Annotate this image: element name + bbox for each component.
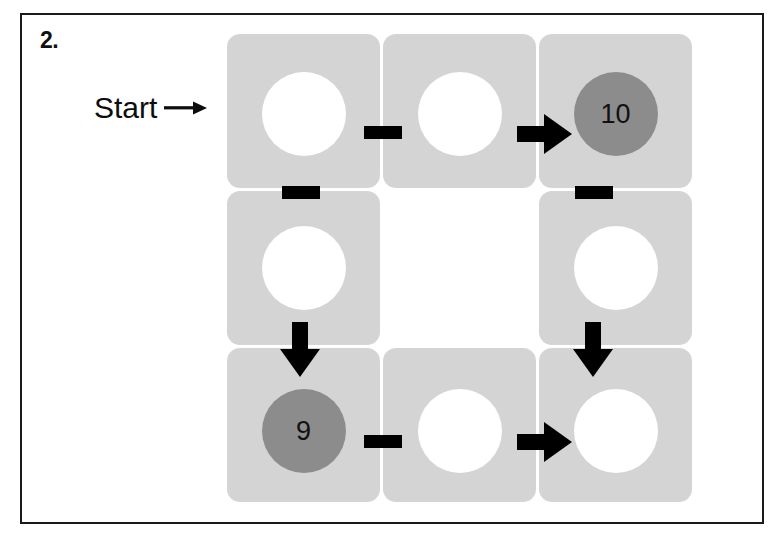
minus-icon-bottom-row-left [364, 435, 402, 448]
arrow-right-thin-icon [164, 98, 208, 118]
board-cell-top-right[interactable]: 10 [539, 34, 692, 188]
answer-circle-top-right[interactable]: 10 [574, 72, 658, 156]
arrow-down-icon-right-column [572, 322, 614, 378]
board-cell-top-left[interactable] [227, 34, 380, 188]
arrow-down-icon-left-column [279, 322, 321, 378]
answer-circle-bottom-left[interactable]: 9 [262, 389, 346, 473]
worksheet-frame: 2. Start 10 9 [20, 13, 764, 524]
answer-circle-top-center[interactable] [418, 72, 502, 156]
start-label: Start [94, 93, 157, 123]
answer-circle-middle-right[interactable] [574, 226, 658, 310]
minus-icon-right-column [575, 186, 613, 199]
minus-icon-left-column [282, 186, 320, 199]
board-cell-top-center[interactable] [383, 34, 536, 188]
arrow-right-icon-bottom-row [517, 421, 573, 463]
board-cell-bottom-center[interactable] [383, 348, 536, 502]
answer-circle-bottom-right[interactable] [574, 389, 658, 473]
board-cell-middle-right[interactable] [539, 191, 692, 345]
answer-circle-middle-left[interactable] [262, 226, 346, 310]
minus-icon-top-row-left [364, 126, 402, 139]
arrow-right-icon-top-row [517, 113, 573, 155]
problem-number: 2. [40, 27, 58, 54]
puzzle-board: 10 9 [227, 34, 692, 502]
start-marker: Start [94, 93, 208, 123]
answer-circle-top-left[interactable] [262, 72, 346, 156]
board-cell-middle-center-empty [383, 191, 536, 345]
answer-circle-bottom-center[interactable] [418, 389, 502, 473]
